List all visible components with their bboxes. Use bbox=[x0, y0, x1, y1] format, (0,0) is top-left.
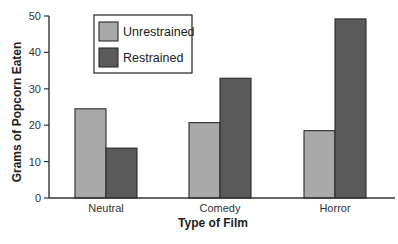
legend-swatch-unrestrained bbox=[99, 22, 118, 41]
legend: UnrestrainedRestrained bbox=[94, 15, 195, 73]
legend-label-unrestrained: Unrestrained bbox=[123, 25, 195, 39]
bar-neutral-unrestrained bbox=[75, 109, 106, 198]
y-axis: 01020304050 bbox=[29, 10, 49, 204]
x-tick-label: Neutral bbox=[88, 202, 123, 214]
x-tick-label: Horror bbox=[319, 202, 351, 214]
legend-label-restrained: Restrained bbox=[123, 51, 183, 65]
y-tick-label: 10 bbox=[29, 156, 41, 168]
y-tick-label: 30 bbox=[29, 83, 41, 95]
bar-comedy-restrained bbox=[220, 78, 251, 198]
bar-horror-restrained bbox=[335, 19, 366, 198]
y-axis-title: Grams of Popcorn Eaten bbox=[10, 42, 24, 183]
y-tick-label: 40 bbox=[29, 46, 41, 58]
legend-swatch-restrained bbox=[99, 48, 118, 67]
bar-neutral-restrained bbox=[106, 148, 137, 198]
x-axis-title: Type of Film bbox=[178, 216, 248, 230]
x-tick-label: Comedy bbox=[200, 202, 241, 214]
bar-chart: 01020304050 NeutralComedyHorror Unrestra… bbox=[0, 0, 398, 244]
y-tick-label: 0 bbox=[35, 192, 41, 204]
x-axis: NeutralComedyHorror bbox=[49, 198, 395, 214]
bar-comedy-unrestrained bbox=[189, 123, 220, 198]
y-tick-label: 20 bbox=[29, 119, 41, 131]
y-tick-label: 50 bbox=[29, 10, 41, 22]
bar-horror-unrestrained bbox=[304, 131, 335, 198]
